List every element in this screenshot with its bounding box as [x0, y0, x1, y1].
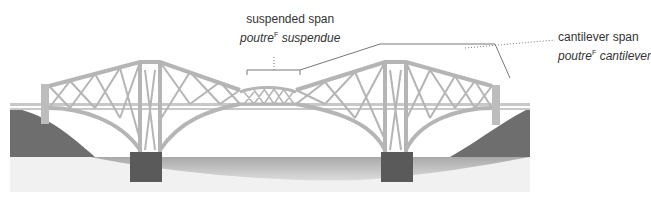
label-en: cantilever span — [558, 30, 651, 45]
right-bank — [450, 108, 530, 157]
label-fr: poutreF cantilever — [558, 45, 651, 64]
label-fr: poutreF suspendue — [240, 27, 340, 46]
right-end-tower — [492, 85, 500, 125]
left-cantilever — [49, 62, 240, 152]
left-pier — [130, 152, 162, 182]
suspended-span — [240, 88, 296, 105]
label-suspended-span: suspended span poutreF suspendue — [240, 12, 340, 46]
right-cantilever — [296, 62, 492, 152]
left-bank — [10, 108, 95, 157]
water-area — [10, 157, 530, 192]
label-cantilever-span: cantilever span poutreF cantilever — [558, 30, 651, 64]
left-end-tower — [41, 84, 49, 124]
label-en: suspended span — [240, 12, 340, 27]
right-pier — [381, 152, 413, 182]
callout-suspended — [247, 56, 300, 75]
